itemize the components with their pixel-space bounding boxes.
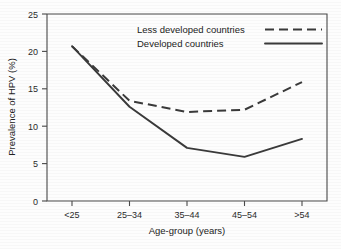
x-tick-label-4: >54 bbox=[294, 210, 309, 220]
series-developed-countries bbox=[72, 46, 302, 157]
x-axis-title: Age-group (years) bbox=[149, 225, 226, 236]
y-tick-label-15: 15 bbox=[28, 84, 38, 94]
x-axis-ticks bbox=[72, 201, 302, 206]
x-tick-label-3: 45–54 bbox=[232, 210, 257, 220]
y-tick-label-25: 25 bbox=[28, 10, 38, 20]
y-tick-label-10: 10 bbox=[28, 122, 38, 132]
chart-figure: 0 5 10 15 20 25 Prevalence of HPV (%) <2… bbox=[0, 0, 341, 249]
x-tick-label-1: 25–34 bbox=[117, 210, 142, 220]
y-axis-title: Prevalence of HPV (%) bbox=[6, 58, 17, 156]
series-less-developed-countries bbox=[72, 46, 302, 112]
x-tick-label-0: <25 bbox=[64, 210, 79, 220]
x-tick-label-2: 35–44 bbox=[174, 210, 199, 220]
y-tick-label-20: 20 bbox=[28, 47, 38, 57]
legend-label-developed: Developed countries bbox=[137, 38, 224, 49]
legend-label-less-developed: Less developed countries bbox=[137, 24, 245, 35]
y-tick-label-0: 0 bbox=[33, 197, 38, 207]
hpv-prevalence-line-chart: 0 5 10 15 20 25 Prevalence of HPV (%) <2… bbox=[0, 0, 341, 249]
y-axis-ticks bbox=[42, 14, 47, 201]
y-tick-label-5: 5 bbox=[33, 159, 38, 169]
chart-legend: Less developed countries Developed count… bbox=[137, 24, 322, 49]
